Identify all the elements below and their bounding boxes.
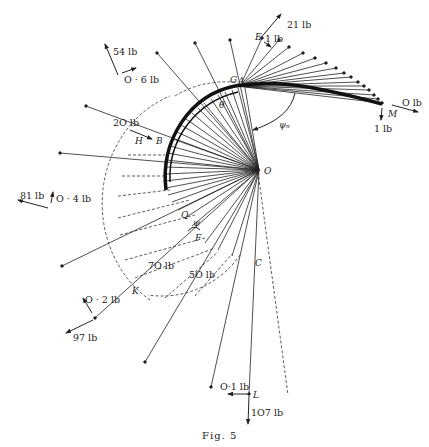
label-point-E: E <box>254 32 262 42</box>
label-70lb: 7O lb <box>148 260 174 271</box>
label-point-F: F <box>194 233 202 243</box>
arrow-0-4lb <box>51 192 53 203</box>
label-point-G: G <box>230 75 237 85</box>
diagram-canvas: 21 lb 1 lb 54 lb O · 6 lb 2O lb O lb 1 l… <box>0 0 429 447</box>
figure-caption: Fig. 5 <box>202 430 237 441</box>
label-81lb: 81 lb <box>20 190 44 201</box>
label-107lb: 1O7 lb <box>251 407 283 418</box>
label-97lb: 97 lb <box>73 332 97 343</box>
arrow-0-6lb <box>122 68 136 73</box>
arrow-1lb-right <box>381 108 382 120</box>
force-arrows <box>18 14 418 424</box>
label-point-B: B <box>155 136 163 146</box>
label-point-L: L <box>252 390 259 400</box>
force-diagram-figure: 21 lb 1 lb 54 lb O · 6 lb 2O lb O lb 1 l… <box>0 0 429 447</box>
label-0lb: O lb <box>402 97 422 108</box>
label-psi: ψ <box>193 218 201 228</box>
label-point-C: C <box>255 258 262 268</box>
label-20lb: 2O lb <box>113 117 139 128</box>
label-origin-O: O <box>264 166 272 176</box>
label-54lb: 54 lb <box>113 46 137 57</box>
label-theta: θ <box>219 100 225 110</box>
label-1lb-right: 1 lb <box>374 123 392 134</box>
label-point-Q: Q <box>181 210 189 220</box>
label-0-2lb: O · 2 lb <box>85 294 120 305</box>
label-0-4lb: O · 4 lb <box>56 193 91 204</box>
label-1lb-top: 1 lb <box>265 33 283 44</box>
label-point-K: K <box>131 286 140 296</box>
label-point-M: M <box>387 109 398 119</box>
label-point-A: A <box>237 76 245 86</box>
label-0-6lb: O · 6 lb <box>124 74 159 85</box>
arrow-107lb <box>248 396 249 424</box>
dashed-tangent-line <box>258 172 288 395</box>
label-psi-n: ψₙ <box>279 120 290 130</box>
label-point-H: H <box>134 136 143 146</box>
label-0-1lb: O·1 lb <box>220 381 249 392</box>
label-21lb: 21 lb <box>287 19 311 30</box>
labels: 21 lb 1 lb 54 lb O · 6 lb 2O lb O lb 1 l… <box>20 19 422 418</box>
label-50lb: 5O lb <box>189 269 215 280</box>
arrow-81lb <box>18 200 48 208</box>
